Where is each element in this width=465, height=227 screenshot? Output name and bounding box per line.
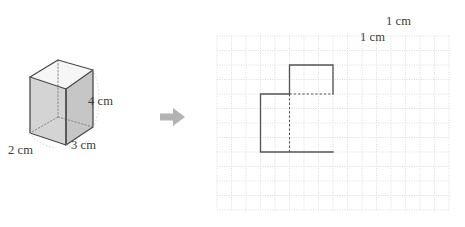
prism-width-label: 2 cm	[8, 143, 33, 158]
figure-canvas: 2 cm 3 cm 4 cm	[0, 0, 465, 227]
prism-figure: 2 cm 3 cm 4 cm	[0, 0, 150, 227]
grid-figure: 1 cm 1 cm	[180, 0, 465, 227]
prism-height-label: 4 cm	[88, 94, 113, 109]
grid-drawing	[180, 0, 465, 227]
prism-drawing	[0, 0, 150, 227]
grid-horizontal-unit-label: 1 cm	[386, 14, 411, 29]
grid-lines	[217, 36, 449, 210]
grid-vertical-unit-label: 1 cm	[360, 30, 385, 45]
prism-depth-label: 3 cm	[71, 138, 96, 153]
